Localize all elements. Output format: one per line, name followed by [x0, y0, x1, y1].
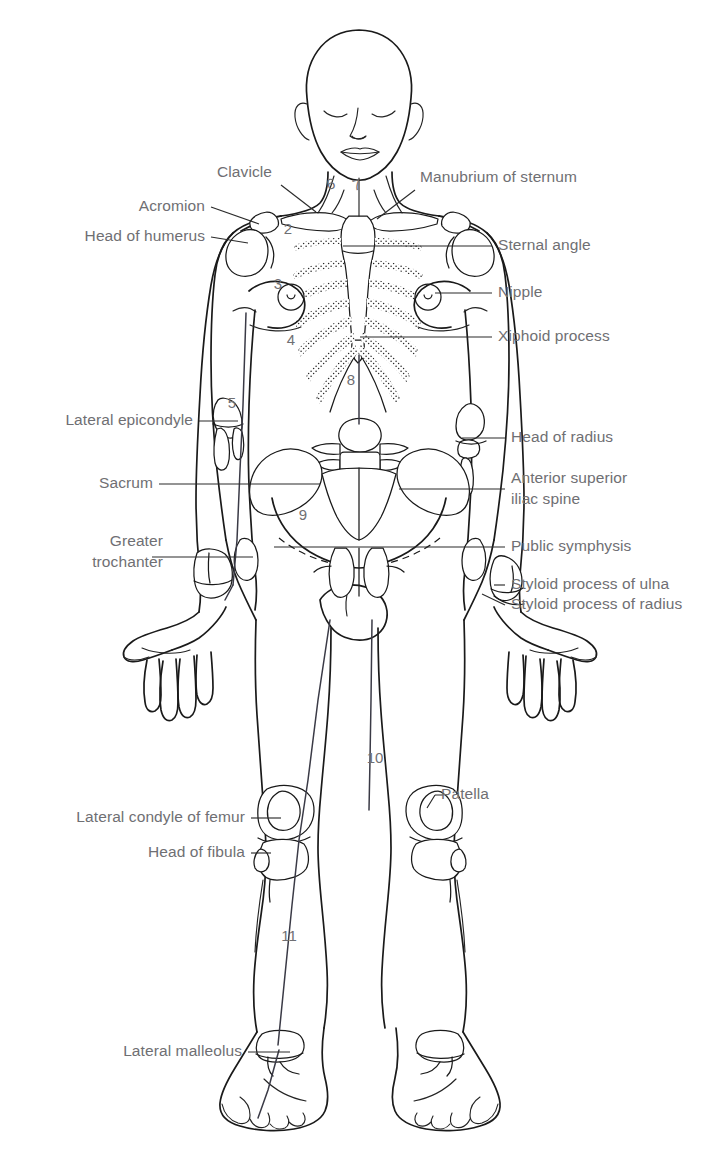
left-patella-bone	[267, 791, 300, 830]
left-greater-trochanter-bone	[234, 538, 258, 580]
label-greater-trochanter-line2: trochanter	[92, 553, 163, 570]
marker-5: 5	[228, 394, 236, 411]
label-nipple: Nipple	[498, 283, 543, 300]
marker-9: 9	[299, 506, 307, 523]
label-head-of-radius: Head of radius	[511, 428, 613, 445]
label-lateral-epicondyle: Lateral epicondyle	[65, 411, 193, 428]
left-tibia-shaft-top	[269, 880, 270, 902]
label-head-of-humerus: Head of humerus	[85, 227, 206, 244]
anatomy-diagram: Clavicle Acromion Head of humerus Latera…	[0, 0, 719, 1164]
left-pubic-bone	[329, 548, 354, 597]
label-lateral-condyle-of-femur: Lateral condyle of femur	[76, 808, 245, 825]
label-head-of-fibula: Head of fibula	[148, 843, 245, 860]
label-styloid-process-of-ulna: Styloid process of ulna	[511, 575, 670, 592]
right-greater-trochanter-bone	[462, 538, 486, 580]
anatomy-figure-root: Clavicle Acromion Head of humerus Latera…	[0, 0, 719, 1164]
left-ulna-proximal-bone	[214, 428, 229, 470]
marker-2: 2	[284, 220, 292, 237]
label-manubrium-of-sternum: Manubrium of sternum	[420, 168, 577, 185]
label-greater-trochanter-line1: Greater	[110, 532, 163, 549]
right-fibula-head-bone	[451, 849, 466, 871]
label-anterior-superior-iliac-spine-line1: Anterior superior	[511, 469, 627, 486]
left-wrist-bones	[194, 549, 232, 598]
marker-11: 11	[281, 927, 297, 944]
marker-4: 4	[287, 331, 295, 348]
label-sacrum: Sacrum	[99, 474, 153, 491]
label-styloid-process-of-radius: Styloid process of radius	[511, 595, 683, 612]
lumbar-vertebra-body	[339, 418, 381, 452]
label-lateral-malleolus: Lateral malleolus	[123, 1042, 242, 1059]
label-sternal-angle: Sternal angle	[498, 236, 591, 253]
label-acromion: Acromion	[139, 197, 205, 214]
marker-3: 3	[274, 275, 282, 292]
label-clavicle: Clavicle	[217, 163, 272, 180]
right-nipple-marker	[415, 284, 441, 310]
label-public-symphysis: Public symphysis	[511, 537, 632, 554]
label-anterior-superior-iliac-spine-line2: iliac spine	[511, 490, 580, 507]
marker-8: 8	[347, 371, 355, 388]
right-tibia-shaft-top	[450, 880, 451, 902]
label-patella: Patella	[441, 785, 489, 802]
marker-10: 10	[367, 749, 384, 766]
label-xiphoid-process: Xiphoid process	[498, 327, 610, 344]
right-pubic-bone	[364, 548, 389, 597]
